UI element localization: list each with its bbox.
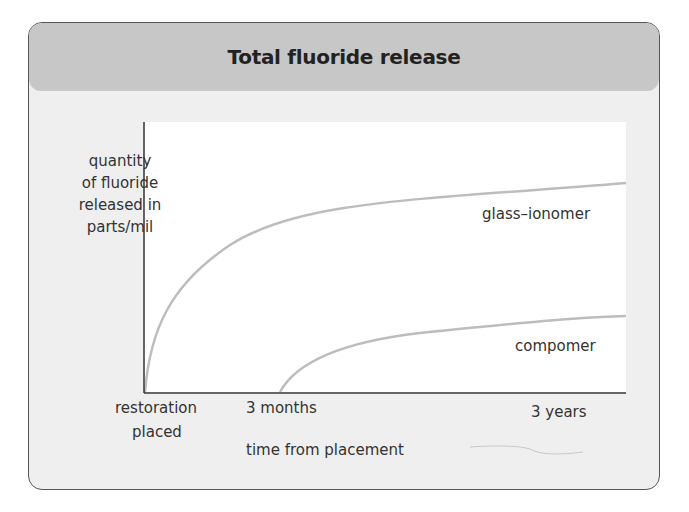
scribble-mark (0, 0, 689, 512)
